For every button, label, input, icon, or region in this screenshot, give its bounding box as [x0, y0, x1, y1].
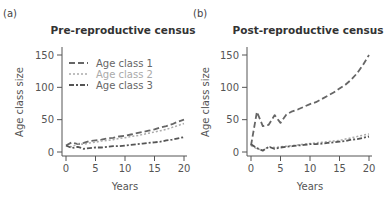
panel-b-axes: 05010015005101520: [220, 47, 375, 174]
legend: Age class 1 Age class 2 Age class 3: [69, 58, 153, 91]
y-tick-label: 100: [220, 82, 239, 93]
x-tick-label: 20: [363, 163, 376, 174]
x-tick-label: 5: [92, 163, 98, 174]
series-line-class3: [251, 137, 369, 151]
panel-b-tag: (b): [193, 8, 207, 19]
y-tick-label: 150: [35, 50, 54, 61]
x-tick-label: 15: [148, 163, 161, 174]
y-tick-label: 0: [48, 147, 54, 158]
legend-label-class1: Age class 1: [96, 58, 153, 69]
x-tick-label: 0: [248, 163, 254, 174]
y-tick-label: 0: [233, 147, 239, 158]
x-tick-label: 20: [178, 163, 191, 174]
panel-b-ylabel: Age class size: [200, 67, 211, 137]
panel-a-lines: [66, 120, 184, 149]
figure: (a) Pre-reproductive census Age class si…: [0, 0, 385, 203]
panel-b-xlabel: Years: [296, 181, 323, 192]
x-tick-label: 10: [119, 163, 132, 174]
x-tick-label: 5: [277, 163, 283, 174]
y-tick-label: 50: [226, 114, 239, 125]
panel-a-ylabel: Age class size: [14, 67, 25, 137]
panel-a-tag: (a): [3, 8, 17, 19]
x-tick-label: 10: [304, 163, 317, 174]
legend-label-class3: Age class 3: [96, 80, 153, 91]
series-line-class2: [251, 134, 369, 150]
y-tick-label: 50: [41, 114, 54, 125]
panel-a-xlabel: Years: [111, 181, 138, 192]
legend-label-class2: Age class 2: [96, 69, 153, 80]
y-tick-label: 100: [35, 82, 54, 93]
x-tick-label: 15: [333, 163, 346, 174]
y-tick-label: 150: [220, 50, 239, 61]
panel-b: (b) Post-reproductive census Age class s…: [193, 8, 384, 192]
panel-a: (a) Pre-reproductive census Age class si…: [3, 8, 195, 192]
panel-b-lines: [251, 55, 369, 151]
series-line-class1: [66, 120, 184, 146]
series-line-class1: [251, 55, 369, 146]
panel-a-title: Pre-reproductive census: [51, 24, 196, 36]
panel-b-title: Post-reproductive census: [233, 24, 384, 36]
x-tick-label: 0: [63, 163, 69, 174]
